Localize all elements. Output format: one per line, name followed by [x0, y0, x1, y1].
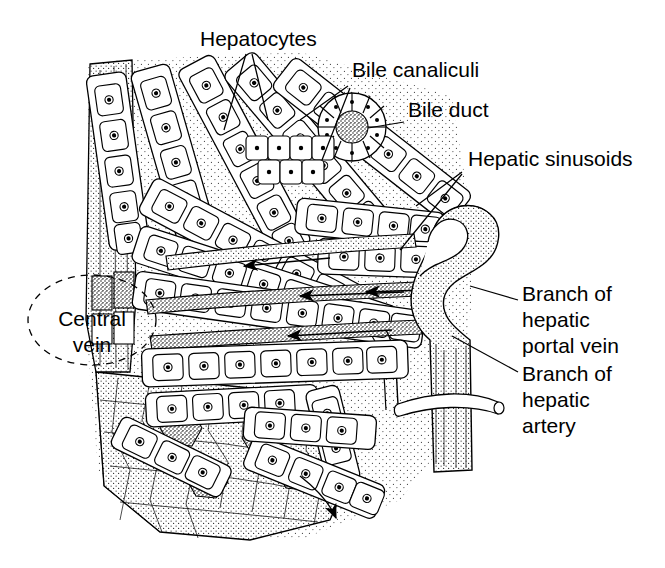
label-bile-duct: Bile duct	[408, 98, 489, 121]
label-portal-vein-line3: portal vein	[522, 334, 619, 357]
label-portal-vein-line1: Branch of	[522, 282, 612, 305]
label-hepatic-artery: Branch of hepatic artery	[522, 362, 612, 437]
label-central-vein-line1: Central	[58, 307, 126, 330]
diagram-canvas: Hepatocytes Bile canaliculi Bile duct He…	[0, 0, 665, 568]
label-hepatic-sinusoids: Hepatic sinusoids	[468, 147, 633, 170]
label-central-vein-line2: vein	[73, 333, 112, 356]
label-portal-vein-line2: hepatic	[522, 308, 590, 331]
label-hepatic-artery-line3: artery	[522, 414, 576, 437]
label-portal-vein: Branch of hepatic portal vein	[522, 282, 619, 357]
label-hepatic-artery-line1: Branch of	[522, 362, 612, 385]
liver-lobule-diagram: Hepatocytes Bile canaliculi Bile duct He…	[0, 0, 665, 568]
bile-duct-cell-row	[246, 136, 334, 184]
label-hepatocytes: Hepatocytes	[200, 27, 317, 50]
label-bile-canaliculi: Bile canaliculi	[352, 58, 479, 81]
label-hepatic-artery-line2: hepatic	[522, 388, 590, 411]
